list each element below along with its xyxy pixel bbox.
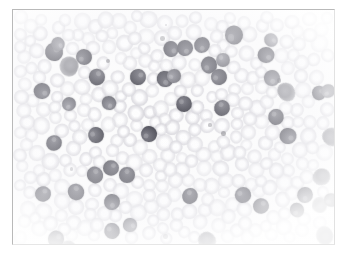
chromatin-highlight <box>219 55 224 60</box>
chromatin-highlight <box>237 190 244 197</box>
chromatin-highlight <box>168 74 174 80</box>
chromatin-highlight <box>183 48 190 55</box>
chromatin-highlight <box>107 103 113 109</box>
chromatin-highlight <box>123 168 131 176</box>
red-blood-cell <box>184 154 198 168</box>
platelet <box>208 123 211 126</box>
blood-smear-micrograph <box>13 10 334 244</box>
chromatin-highlight <box>92 168 100 176</box>
red-blood-cell <box>140 224 158 243</box>
platelet <box>277 78 281 82</box>
red-blood-cell <box>16 160 29 173</box>
chromatin-highlight <box>42 90 48 96</box>
chromatin-highlight <box>288 135 295 141</box>
chromatin-highlight <box>179 99 185 105</box>
red-blood-cell <box>14 230 27 244</box>
chromatin-highlight <box>271 37 278 44</box>
chromatin-highlight <box>143 132 149 138</box>
chromatin-highlight <box>78 56 84 62</box>
chromatin-highlight <box>326 200 331 205</box>
chromatin-highlight <box>51 136 59 144</box>
chromatin-highlight <box>228 34 234 41</box>
red-blood-cell <box>105 143 119 157</box>
chromatin-highlight <box>56 234 62 240</box>
chromatin-highlight <box>89 130 96 137</box>
chromatin-highlight <box>301 195 309 203</box>
lymphocyte <box>33 185 52 203</box>
lymphocyte <box>324 193 334 207</box>
chromatin-highlight <box>58 43 64 49</box>
chromatin-highlight <box>42 188 48 194</box>
platelet <box>70 167 73 170</box>
chromatin-highlight <box>198 45 206 53</box>
chromatin-highlight <box>204 65 210 71</box>
chromatin-highlight <box>108 202 116 210</box>
chromatin-highlight <box>73 184 81 192</box>
lymphocyte <box>257 47 274 64</box>
chromatin-highlight <box>218 101 225 108</box>
red-blood-cell <box>188 11 202 25</box>
chromatin-highlight <box>186 189 193 196</box>
lymphocyte <box>103 160 119 176</box>
red-blood-cell <box>67 199 85 217</box>
platelet <box>106 59 110 63</box>
chromatin-highlight <box>271 111 277 117</box>
platelet <box>221 131 226 136</box>
chromatin-highlight <box>269 78 277 86</box>
chromatin-highlight <box>111 163 117 168</box>
red-blood-cell <box>240 230 254 244</box>
red-blood-cell <box>241 125 257 141</box>
chromatin-highlight <box>65 104 72 111</box>
chromatin-highlight <box>106 226 112 232</box>
lymphocyte <box>216 53 230 67</box>
platelet <box>293 209 296 212</box>
chromatin-highlight <box>138 72 144 78</box>
lymphocyte <box>33 82 51 100</box>
chromatin-highlight <box>261 201 267 207</box>
chromatin-highlight <box>212 74 219 81</box>
red-blood-cell <box>59 14 71 27</box>
lymphocyte <box>103 222 121 240</box>
platelet <box>160 36 165 41</box>
red-blood-cell <box>301 12 316 26</box>
chromatin-highlight <box>266 55 272 61</box>
chromatin-highlight <box>95 70 102 77</box>
chromatin-highlight <box>324 91 330 97</box>
lymphocyte <box>225 25 243 44</box>
screenshot-root <box>0 0 342 253</box>
image-frame <box>12 9 335 245</box>
chromatin-highlight <box>130 222 137 229</box>
